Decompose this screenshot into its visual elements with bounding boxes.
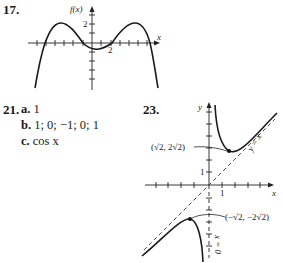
point-upper-label: (√2, 2√2): [151, 142, 185, 152]
graph-23: y x 1 1 (√2, 2√2) (−√2, −2√2) y = x x = …: [142, 102, 277, 262]
point-upper-marker: [227, 149, 231, 153]
part-b-answer: 1; 0; −1; 0; 1: [34, 118, 99, 132]
graph-23-x-tick-label: 1: [220, 188, 225, 198]
graph-23-y-tick-label: 1: [200, 167, 205, 177]
graph-23-lower-branch: [142, 219, 203, 262]
problem-21-part-b: b. 1; 0; −1; 0; 1: [21, 118, 99, 133]
point-lower-marker: [188, 217, 192, 221]
problem-23-number: 23.: [143, 102, 159, 118]
point-lower-label: (−√2, −2√2): [225, 212, 269, 222]
vertical-asymptote-label: x = 0: [213, 234, 223, 255]
graph-23-axes: [145, 105, 272, 246]
graph-23-y-label: y: [197, 102, 202, 112]
graph-17-x-tick-label: 2: [108, 45, 113, 55]
part-c-label: c.: [21, 134, 30, 148]
graph-17-y-label: f(x): [70, 4, 83, 14]
x-axis-arrow-icon: [268, 183, 274, 188]
part-b-label: b.: [21, 118, 31, 132]
problem-21-part-a: a. 1: [21, 102, 40, 117]
part-c-answer: cos x: [33, 134, 59, 148]
graph-17-x-label: x: [156, 32, 161, 42]
problem-21-part-c: c. cos x: [21, 134, 59, 149]
problem-21-number: 21.: [3, 102, 19, 118]
graph-23-x-label: x: [271, 188, 276, 198]
y-axis-arrow-icon: [207, 102, 212, 108]
oblique-asymptote-label: y = x: [245, 132, 264, 154]
part-a-label: a.: [21, 102, 30, 116]
graph-17-curve: [35, 23, 158, 88]
graph-17-y-tick-label: 2: [83, 19, 88, 29]
part-a-answer: 1: [34, 102, 40, 116]
y-axis-arrow-icon: [90, 6, 95, 12]
